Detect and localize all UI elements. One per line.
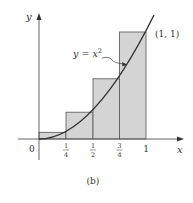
tick-one: 1 <box>143 144 149 154</box>
function-label: y = x2 <box>72 47 102 59</box>
riemann-sum-diagram: y x 0 y = x2 (1, 1) 1 4 1 2 3 4 1 (b) <box>0 0 193 203</box>
svg-text:1: 1 <box>91 142 95 150</box>
figure-caption: (b) <box>87 176 100 186</box>
svg-text:1: 1 <box>64 142 68 150</box>
tick-three-quarters: 3 4 <box>117 142 123 159</box>
svg-text:3: 3 <box>117 142 121 150</box>
svg-text:4: 4 <box>64 151 68 159</box>
y-axis-label: y <box>25 11 32 22</box>
x-axis-arrow-icon <box>177 137 184 142</box>
y-axis-arrow-icon <box>37 13 42 20</box>
rectangle-2 <box>66 112 93 139</box>
rectangle-3 <box>93 79 120 139</box>
svg-text:4: 4 <box>117 151 121 159</box>
tick-quarter: 1 4 <box>63 142 69 159</box>
origin-label: 0 <box>29 144 35 154</box>
svg-text:2: 2 <box>91 151 95 159</box>
x-axis-label: x <box>177 144 183 155</box>
tick-half: 1 2 <box>90 142 96 159</box>
rectangle-4 <box>120 32 147 139</box>
point-label: (1, 1) <box>155 29 179 39</box>
